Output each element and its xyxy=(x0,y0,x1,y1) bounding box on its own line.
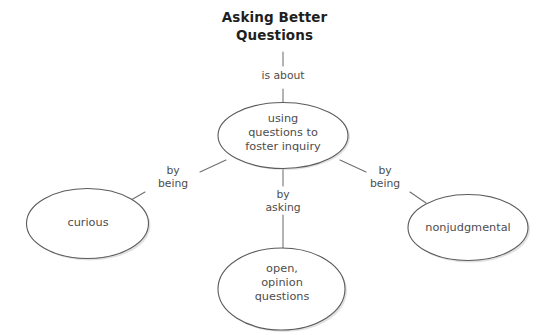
concept-map-canvas: Asking Better Questions is about using q… xyxy=(0,0,549,335)
node-label-nonjudgmental: nonjudgmental xyxy=(406,221,530,235)
page-title: Asking Better Questions xyxy=(0,9,549,44)
edge-label-by-being-left: by being xyxy=(140,164,206,191)
edge-center-to-nonjudgmental-lower xyxy=(410,192,426,203)
edge-label-is-about: is about xyxy=(246,69,320,82)
node-label-center: using questions to foster inquiry xyxy=(218,112,348,153)
edge-label-by-asking: by asking xyxy=(250,188,316,215)
edge-center-to-curious-lower xyxy=(131,192,145,200)
node-label-open-questions: open, opinion questions xyxy=(218,262,346,303)
edge-label-by-being-right: by being xyxy=(352,164,418,191)
node-label-curious: curious xyxy=(27,216,149,230)
